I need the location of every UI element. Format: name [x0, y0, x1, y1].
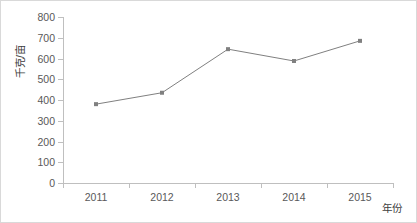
- y-axis-line: [63, 17, 64, 184]
- x-tick-mark: [195, 183, 196, 188]
- x-tick-mark: [63, 183, 64, 188]
- y-tick-mark: [58, 121, 63, 122]
- x-tick-mark: [393, 183, 394, 188]
- y-tick-mark: [58, 100, 63, 101]
- data-point-marker: [94, 102, 98, 106]
- y-tick-mark: [58, 162, 63, 163]
- y-tick-mark: [58, 17, 63, 18]
- x-tick-label: 2011: [63, 191, 129, 203]
- y-tick-mark: [58, 38, 63, 39]
- y-tick-label: 200: [19, 136, 55, 147]
- chart-figure: 千克/亩 年份 0100200300400500600700800 201120…: [0, 0, 417, 223]
- x-tick-mark: [327, 183, 328, 188]
- y-tick-label: 700: [19, 33, 55, 44]
- data-point-marker: [226, 47, 230, 51]
- y-tick-mark: [58, 142, 63, 143]
- y-tick-mark: [58, 79, 63, 80]
- x-tick-label: 2014: [261, 191, 327, 203]
- y-tick-label: 100: [19, 157, 55, 168]
- y-tick-label: 600: [19, 53, 55, 64]
- x-axis-line: [63, 183, 394, 184]
- data-point-marker: [160, 91, 164, 95]
- x-tick-label: 2015: [327, 191, 393, 203]
- x-tick-label: 2013: [195, 191, 261, 203]
- data-point-marker: [358, 39, 362, 43]
- y-tick-mark: [58, 59, 63, 60]
- x-tick-label: 2012: [129, 191, 195, 203]
- data-point-marker: [292, 59, 296, 63]
- x-tick-mark: [261, 183, 262, 188]
- y-tick-label: 400: [19, 95, 55, 106]
- y-tick-label: 800: [19, 12, 55, 23]
- y-tick-label: 0: [19, 178, 55, 189]
- y-tick-label: 500: [19, 74, 55, 85]
- x-tick-mark: [129, 183, 130, 188]
- y-tick-label: 300: [19, 116, 55, 127]
